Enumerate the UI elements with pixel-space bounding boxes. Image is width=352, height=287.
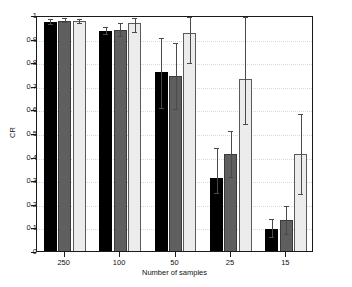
error-bar-cap-upper [243, 17, 248, 18]
error-bar-cap-upper [284, 206, 289, 207]
plot-area [36, 16, 313, 252]
bar-100-series-2 [114, 30, 127, 252]
y-tick-label: 0.3 [7, 177, 37, 185]
error-bar-cap-lower [48, 24, 53, 25]
x-axis-label: Number of samples [36, 268, 313, 277]
y-tick-label: 0 [7, 248, 37, 256]
error-bar-cap-upper [228, 131, 233, 132]
y-tick-label: 0.2 [7, 201, 37, 209]
error-bar-line [286, 206, 287, 234]
bar-250-series-1 [44, 22, 57, 251]
error-bar-cap-lower [187, 63, 192, 64]
error-bar-line [245, 17, 246, 124]
bar-50-series-3 [183, 33, 196, 251]
error-bar-cap-upper [159, 38, 164, 39]
error-bar-line [135, 18, 136, 32]
x-tick-label: 25 [210, 258, 250, 267]
y-tick-label: 0.5 [7, 130, 37, 138]
x-tick-label: 50 [155, 258, 195, 267]
error-bar-cap-upper [214, 148, 219, 149]
x-tick-mark [285, 252, 286, 257]
error-bar-cap-upper [62, 18, 67, 19]
x-tick-label: 100 [99, 258, 139, 267]
x-tick-mark [230, 252, 231, 257]
y-tick-label: 0.6 [7, 106, 37, 114]
error-bar-line [217, 148, 218, 193]
error-bar-cap-lower [228, 177, 233, 178]
error-bar-line [301, 114, 302, 193]
error-bar-cap-lower [159, 108, 164, 109]
x-tick-label: 250 [44, 258, 84, 267]
y-tick-label: 0.7 [7, 83, 37, 91]
error-bar-cap-lower [214, 193, 219, 194]
error-bar-cap-upper [77, 19, 82, 20]
bar-100-series-1 [99, 31, 112, 251]
error-bar-cap-lower [132, 32, 137, 33]
bar-100-series-3 [128, 23, 141, 251]
y-tick-label: 0.9 [7, 36, 37, 44]
error-bar-line [272, 219, 273, 237]
x-tick-label: 15 [265, 258, 305, 267]
error-bar-cap-lower [62, 22, 67, 23]
error-bar-cap-lower [243, 124, 248, 125]
error-bar-cap-lower [284, 234, 289, 235]
error-bar-cap-lower [77, 23, 82, 24]
x-tick-mark [175, 252, 176, 257]
error-bar-line [176, 43, 177, 109]
y-tick-label: 0.1 [7, 224, 37, 232]
error-bar-cap-lower [173, 109, 178, 110]
error-bar-cap-upper [103, 27, 108, 28]
bar-250-series-3 [73, 21, 86, 251]
error-bar-cap-upper [132, 18, 137, 19]
error-bar-cap-upper [173, 43, 178, 44]
x-tick-mark [119, 252, 120, 257]
error-bar-cap-lower [118, 36, 123, 37]
error-bar-line [161, 38, 162, 108]
chart-figure: CR 00.10.20.30.40.50.60.70.80.91 2501005… [0, 0, 352, 287]
error-bar-cap-upper [187, 17, 192, 18]
error-bar-cap-upper [269, 219, 274, 220]
x-tick-mark [64, 252, 65, 257]
error-bar-cap-upper [298, 114, 303, 115]
error-bar-cap-upper [48, 19, 53, 20]
y-tick-label: 0.8 [7, 59, 37, 67]
plot-inner [37, 17, 312, 251]
error-bar-cap-lower [103, 34, 108, 35]
error-bar-cap-lower [298, 194, 303, 195]
error-bar-line [106, 27, 107, 34]
error-bar-line [120, 23, 121, 36]
error-bar-line [231, 131, 232, 177]
error-bar-cap-upper [118, 23, 123, 24]
y-tick-label: 0.4 [7, 154, 37, 162]
y-tick-label: 1 [7, 12, 37, 20]
bar-250-series-2 [58, 21, 71, 251]
error-bar-line [190, 17, 191, 63]
error-bar-cap-lower [269, 237, 274, 238]
